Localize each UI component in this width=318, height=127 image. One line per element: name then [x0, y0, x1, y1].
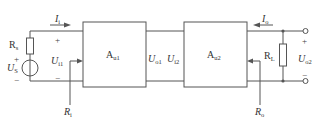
source-minus-sign: − — [14, 76, 19, 85]
input-resistance-label: Ri — [64, 107, 72, 120]
output-terminal-top — [303, 29, 308, 34]
ro-arrowhead — [247, 59, 253, 64]
source-resistor — [27, 38, 34, 54]
output-current-label: Io — [262, 14, 269, 27]
load-resistor-label: RL — [264, 51, 275, 64]
input-current-label: Ii — [55, 14, 60, 27]
source-resistor-label: Rs — [9, 40, 18, 53]
ri-indicator-line — [70, 61, 80, 105]
stage2-gain-label: Au2 — [207, 50, 221, 63]
output-minus-sign: − — [302, 71, 307, 80]
input-minus-sign: − — [55, 74, 60, 83]
stage1-output-voltage-label: Uo1 — [148, 54, 162, 67]
ri-arrowhead — [77, 59, 83, 64]
stage2-input-voltage-label: Ui2 — [167, 54, 179, 67]
load-resistor — [280, 44, 287, 66]
io-arrowhead — [253, 23, 260, 28]
ro-indicator-line — [250, 61, 260, 105]
ii-arrowhead — [64, 23, 71, 28]
stage1-gain-label: Au1 — [106, 50, 120, 63]
input-plus-sign: + — [55, 36, 60, 45]
output-plus-sign: + — [302, 37, 307, 46]
output-voltage-label: Uo2 — [298, 54, 312, 67]
input-voltage-label: Ui1 — [51, 56, 63, 69]
output-resistance-label: Ro — [255, 107, 264, 120]
